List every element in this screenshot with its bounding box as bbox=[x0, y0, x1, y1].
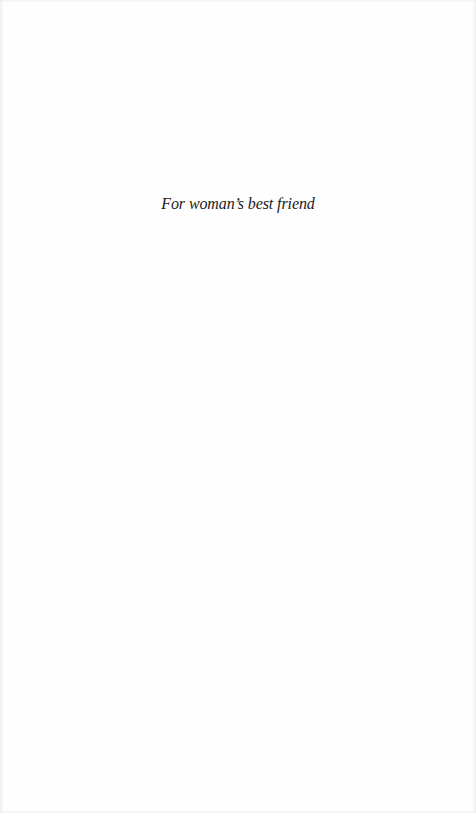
dedication-page: For woman’s best friend bbox=[0, 0, 476, 813]
dedication-text: For woman’s best friend bbox=[0, 192, 476, 216]
